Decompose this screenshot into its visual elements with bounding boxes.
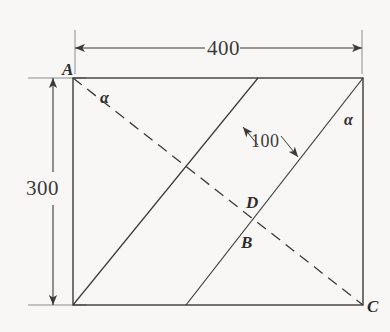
- diagram-canvas: 400 300 100 A B C D α α: [0, 0, 390, 332]
- angle-label-alpha-left: α: [100, 89, 109, 107]
- diagonal-line-AC: [73, 78, 363, 305]
- dimension-label-spacing: 100: [251, 131, 280, 152]
- vertex-label-C: C: [367, 297, 378, 317]
- geometry-figure: [0, 0, 390, 332]
- vertex-label-A: A: [62, 60, 73, 80]
- parallel-line-2: [186, 78, 363, 305]
- angle-label-alpha-right: α: [344, 111, 353, 129]
- dimension-label-width: 400: [207, 36, 240, 61]
- vertex-label-B: B: [241, 233, 252, 253]
- dimension-label-height: 300: [26, 176, 59, 201]
- parallel-line-1: [73, 78, 258, 305]
- vertex-label-D: D: [246, 193, 258, 213]
- spacing-arrow-lower: [281, 136, 298, 157]
